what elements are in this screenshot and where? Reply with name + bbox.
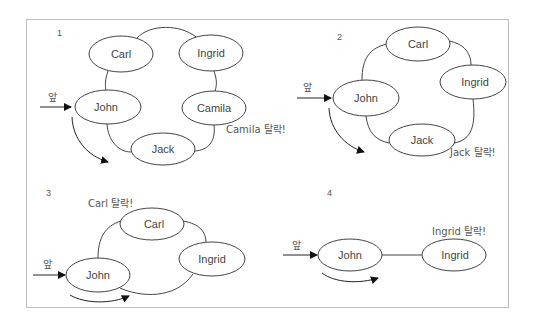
front-label: 앞	[292, 240, 301, 251]
svg-text:Ingrid: Ingrid	[461, 76, 489, 88]
edge-carl-ingrid	[449, 41, 471, 65]
svg-text:John: John	[338, 249, 362, 261]
front-label: 앞	[43, 259, 52, 270]
front-label: 앞	[48, 92, 57, 103]
node-john: John	[333, 80, 399, 116]
svg-text:John: John	[94, 101, 118, 113]
eliminated-label: Carl 탈락!	[88, 197, 133, 209]
node-carl: Carl	[386, 27, 450, 61]
rotation-arrow-icon	[322, 273, 378, 282]
node-john: John	[75, 90, 141, 124]
edge-carl-john	[105, 71, 108, 91]
eliminated-label: Camila 탈락!	[226, 123, 286, 135]
svg-text:Jack: Jack	[152, 143, 175, 155]
svg-text:Ingrid: Ingrid	[441, 249, 469, 261]
rotation-arrow-icon	[70, 295, 129, 302]
node-john: John	[66, 258, 130, 292]
panel-number: 3	[46, 188, 51, 198]
node-ingrid: Ingrid	[179, 242, 245, 276]
node-jack: Jack	[131, 133, 195, 165]
svg-text:Carl: Carl	[144, 218, 164, 230]
svg-text:Jack: Jack	[411, 134, 434, 146]
eliminated-label: Ingrid 탈락!	[432, 225, 486, 237]
diagram-canvas: 1 Carl Ingrid John Camila Jack 앞	[0, 0, 536, 328]
panel-number: 1	[57, 28, 62, 38]
svg-text:Camila: Camila	[197, 102, 232, 114]
panel-1: 1 Carl Ingrid John Camila Jack 앞	[40, 27, 286, 165]
svg-text:Ingrid: Ingrid	[198, 253, 226, 265]
front-label: 앞	[303, 82, 312, 93]
svg-text:Carl: Carl	[111, 48, 131, 60]
edge-ingrid-camila	[214, 71, 216, 91]
edge-ingrid-jack	[454, 99, 474, 143]
node-carl: Carl	[89, 36, 153, 72]
eliminated-label: Jack 탈락!	[449, 146, 496, 158]
node-ingrid: Ingrid	[422, 239, 486, 271]
node-ingrid: Ingrid	[440, 65, 506, 99]
edge-john-jack	[366, 116, 389, 143]
node-camila: Camila	[182, 91, 246, 125]
svg-text:Ingrid: Ingrid	[197, 47, 225, 59]
svg-text:John: John	[86, 269, 110, 281]
panel-number: 2	[337, 32, 342, 42]
edge-camila-jack	[195, 125, 214, 151]
edge-carl-ingrid	[183, 221, 206, 243]
panel-3: 3 Carl 탈락! Carl Ingrid John 앞	[33, 188, 245, 302]
panel-4: 4 John Ingrid Ingrid 탈락! 앞	[283, 188, 486, 282]
edge-carl-john	[98, 221, 121, 258]
node-john: John	[318, 239, 382, 271]
edge-carl-ingrid	[137, 27, 196, 38]
edge-john-jack	[107, 124, 131, 152]
node-ingrid: Ingrid	[179, 35, 243, 71]
panel-number: 4	[327, 188, 332, 198]
panel-2: 2 Carl Ingrid John Jack 앞 Jack 탈락!	[297, 27, 506, 158]
svg-text:Carl: Carl	[408, 38, 428, 50]
node-carl: Carl	[120, 208, 184, 240]
edge-john-ingrid	[120, 274, 193, 294]
edge-carl-john	[362, 44, 387, 80]
svg-text:John: John	[354, 92, 378, 104]
node-jack: Jack	[389, 124, 455, 156]
